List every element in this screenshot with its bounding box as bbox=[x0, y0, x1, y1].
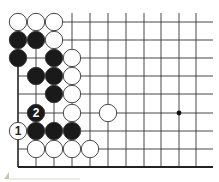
go-board-diagram: 21 bbox=[0, 0, 219, 182]
white-stone bbox=[45, 140, 62, 157]
move-number-label: 2 bbox=[33, 106, 40, 120]
white-stone bbox=[27, 13, 44, 30]
move-number-label: 1 bbox=[15, 124, 22, 138]
white-stone bbox=[81, 140, 98, 157]
black-stone bbox=[63, 122, 80, 139]
white-stone bbox=[63, 140, 80, 157]
black-stone bbox=[27, 67, 44, 84]
black-stone bbox=[9, 31, 26, 48]
black-stone bbox=[9, 49, 26, 66]
black-stone bbox=[45, 67, 62, 84]
white-stone bbox=[27, 140, 44, 157]
white-stone bbox=[9, 13, 26, 30]
black-stone bbox=[45, 49, 62, 66]
white-stone: 1 bbox=[9, 122, 26, 139]
star-point bbox=[177, 111, 182, 116]
white-stone bbox=[45, 31, 62, 48]
white-stone bbox=[63, 85, 80, 102]
black-stone: 2 bbox=[27, 104, 44, 121]
white-stone bbox=[63, 104, 80, 121]
white-stone bbox=[45, 13, 62, 30]
black-stone bbox=[27, 31, 44, 48]
white-stone bbox=[63, 67, 80, 84]
black-stone bbox=[45, 122, 62, 139]
black-stone bbox=[27, 122, 44, 139]
stones-layer: 21 bbox=[9, 13, 116, 157]
white-stone bbox=[99, 104, 116, 121]
star-points bbox=[177, 111, 182, 116]
corner-mark bbox=[4, 172, 80, 179]
white-stone bbox=[63, 49, 80, 66]
black-stone bbox=[45, 85, 62, 102]
